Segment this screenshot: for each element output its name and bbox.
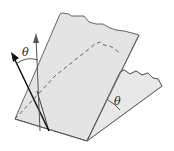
diagram-canvas: θ θ [0, 0, 174, 151]
arrowhead-upright-icon [11, 52, 19, 62]
arrowhead-vertical-icon [33, 33, 39, 43]
theta-label-normals: θ [22, 46, 29, 59]
angle-arc-normals [16, 59, 38, 64]
theta-label-planes: θ [114, 95, 121, 108]
